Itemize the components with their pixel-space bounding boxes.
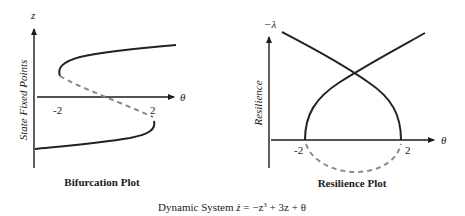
caption-prefix: Dynamic System xyxy=(158,201,236,213)
diagram-canvas: z θ -2 2 State Fixed Points Bifurcation … xyxy=(0,0,465,216)
resilience-y-label: Resilience xyxy=(252,80,264,126)
resilience-tick-2: 2 xyxy=(405,144,411,156)
resilience-tick-neg2: -2 xyxy=(294,144,303,156)
caption-rest: + 3z + θ xyxy=(267,201,306,213)
rising-branch xyxy=(305,33,425,140)
resilience-plot: −λ θ -2 2 Resilience Resilience Plot xyxy=(252,18,447,189)
lower-stable-branch xyxy=(35,121,154,149)
bifurcation-title: Bifurcation Plot xyxy=(64,176,140,188)
bifurcation-x-symbol: θ xyxy=(180,91,186,103)
bifurcation-y-label: State Fixed Points xyxy=(17,60,29,141)
bifurcation-plot: z θ -2 2 State Fixed Points Bifurcation … xyxy=(17,9,186,188)
negative-resilience-branch xyxy=(306,144,401,172)
caption-eq: = −z xyxy=(241,201,264,213)
bifurcation-y-symbol: z xyxy=(30,9,36,21)
falling-branch xyxy=(282,32,401,140)
bifurcation-tick-neg2: -2 xyxy=(53,104,62,116)
resilience-x-symbol: θ xyxy=(441,134,447,146)
bifurcation-tick-2: 2 xyxy=(150,104,156,116)
upper-stable-branch xyxy=(59,45,176,76)
system-equation-caption: Dynamic System ż = −z3 + 3z + θ xyxy=(158,201,306,213)
resilience-y-symbol: −λ xyxy=(264,18,276,30)
resilience-title: Resilience Plot xyxy=(318,177,387,189)
